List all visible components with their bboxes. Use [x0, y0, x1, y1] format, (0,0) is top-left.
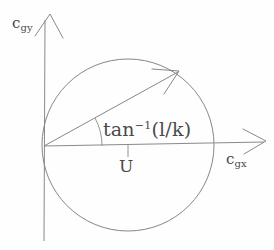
figure-canvas: cgy cgx tan−1(l/k) U: [0, 0, 274, 250]
y-axis-label: cgy: [12, 16, 33, 33]
x-axis-line: [44, 142, 264, 146]
angle-annotation-argument: (l/k): [151, 118, 191, 140]
angle-annotation: tan−1(l/k): [103, 120, 191, 139]
diameter-marker-label: U: [119, 158, 133, 175]
y-axis-arrowhead: [35, 14, 63, 38]
x-axis-arrowhead: [243, 129, 266, 154]
x-axis-label: cgx: [226, 152, 247, 169]
x-axis-label-subscript: gx: [234, 158, 247, 169]
angle-annotation-superscript: −1: [135, 119, 152, 132]
y-axis-label-subscript: gy: [20, 22, 33, 33]
angle-annotation-base: tan: [103, 118, 135, 140]
y-axis-line: [44, 20, 45, 241]
angle-arc: [95, 118, 102, 146]
